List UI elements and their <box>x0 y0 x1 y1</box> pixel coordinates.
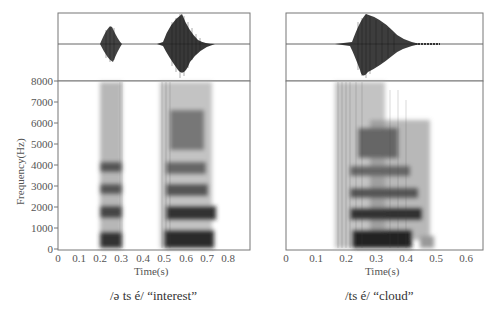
svg-text:0.4: 0.4 <box>399 252 413 264</box>
svg-text:2000: 2000 <box>31 201 54 213</box>
svg-text:0: 0 <box>48 243 54 255</box>
right-x-axis: 0 0.1 0.2 0.3 0.4 0.5 0.6 <box>283 252 473 264</box>
svg-text:0.7: 0.7 <box>200 252 214 264</box>
left-x-axis: 0 0.1 0.2 0.3 0.4 0.5 0.6 0.7 0.8 <box>55 252 235 264</box>
left-x-axis-label: Time(s) <box>134 265 168 277</box>
right-x-axis-label: Time(s) <box>365 265 399 277</box>
svg-text:8000: 8000 <box>31 75 54 87</box>
svg-text:0.2: 0.2 <box>93 252 107 264</box>
svg-text:0.2: 0.2 <box>339 252 353 264</box>
right-caption: /ts é/ “cloud” <box>345 288 414 304</box>
left-y-axis-label: Frequency(Hz) <box>14 138 26 205</box>
right-spectrogram <box>286 81 483 250</box>
left-spectrogram <box>58 81 250 250</box>
svg-text:0.6: 0.6 <box>459 252 473 264</box>
svg-text:0.1: 0.1 <box>72 252 86 264</box>
svg-text:0.5: 0.5 <box>157 252 171 264</box>
spectrogram-figure: 0 0.1 0.2 0.3 0.4 0.5 0.6 0.7 0.8 0 1000… <box>0 0 491 315</box>
left-caption: /ə ts é/ “interest” <box>110 288 197 304</box>
svg-text:0.8: 0.8 <box>221 252 235 264</box>
svg-text:0.3: 0.3 <box>369 252 383 264</box>
svg-text:0: 0 <box>283 252 289 264</box>
svg-text:0.1: 0.1 <box>309 252 323 264</box>
svg-text:7000: 7000 <box>31 96 54 108</box>
svg-text:4000: 4000 <box>31 159 54 171</box>
figure: 0 0.1 0.2 0.3 0.4 0.5 0.6 0.7 0.8 0 1000… <box>0 0 491 315</box>
svg-text:0.4: 0.4 <box>136 252 150 264</box>
left-waveform <box>58 13 250 81</box>
svg-text:5000: 5000 <box>31 138 54 150</box>
svg-text:0: 0 <box>55 252 61 264</box>
svg-text:0.6: 0.6 <box>179 252 193 264</box>
svg-text:6000: 6000 <box>31 117 54 129</box>
svg-text:1000: 1000 <box>31 222 54 234</box>
left-y-tick-labels: 0 1000 2000 3000 4000 5000 6000 7000 800… <box>31 75 54 255</box>
right-waveform <box>286 13 483 81</box>
left-y-axis <box>54 81 58 249</box>
svg-text:3000: 3000 <box>31 180 54 192</box>
svg-text:0.3: 0.3 <box>114 252 128 264</box>
svg-text:0.5: 0.5 <box>429 252 443 264</box>
